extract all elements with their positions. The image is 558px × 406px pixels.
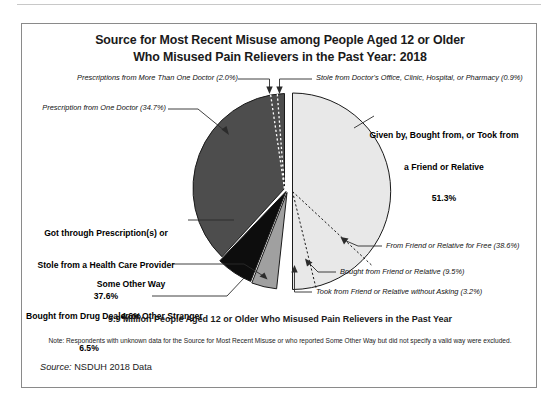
leader-more-than-one-doctor — [238, 79, 270, 87]
chart-page: Source for Most Recent Misuse among Peop… — [0, 0, 558, 406]
chart-source-value: NSDUH 2018 Data — [74, 362, 152, 372]
arrowhead-more-than-one-doctor — [266, 87, 272, 95]
callout-bought-from-drug-dealer-pct: 6.5% — [26, 343, 152, 354]
chart-source-label: Source: — [40, 362, 72, 372]
leader-stole-doctors-office — [280, 79, 313, 87]
callout-took-from-friend: Took from Friend or Relative without Ask… — [316, 287, 516, 298]
arrowhead-stole-doctors-office — [276, 87, 282, 95]
chart-note: Note: Respondents with unknown data for … — [22, 337, 538, 344]
callout-got-through-prescription-line-1: Got through Prescription(s) or — [26, 228, 186, 239]
callout-stole-from-doctors-office: Stole from Doctor's Office, Clinic, Hosp… — [316, 73, 546, 84]
callout-given-by-friend-relative-line-2: a Friend or Relative — [356, 162, 532, 173]
callout-given-by-friend-relative-pct: 51.3% — [356, 193, 532, 204]
callout-bought-from-friend: Bought from Friend or Relative (9.5%) — [340, 267, 500, 278]
pie-group-prescription — [193, 94, 285, 257]
callout-prescription-one-doctor: Prescription from One Doctor (34.7%) — [28, 103, 166, 114]
pie-slice-prescription-health-care[interactable] — [193, 94, 285, 257]
chart-panel: Source for Most Recent Misuse among Peop… — [21, 23, 537, 388]
callout-prescriptions-more-than-one-doctor: Prescriptions from More Than One Doctor … — [32, 73, 238, 84]
chart-subtitle: 9.9 Million People Aged 12 or Older Who … — [22, 314, 538, 324]
callout-some-other-way-label: Some Other Way — [90, 279, 172, 290]
callout-from-friend-for-free: From Friend or Relative for Free (38.6%) — [386, 241, 536, 252]
chart-source: Source: NSDUH 2018 Data — [40, 362, 152, 372]
page-top-divider — [17, 4, 541, 5]
callout-given-by-friend-relative-line-1: Given by, Bought from, or Took from — [356, 130, 532, 141]
callout-given-by-friend-relative: Given by, Bought from, or Took from a Fr… — [356, 109, 532, 225]
